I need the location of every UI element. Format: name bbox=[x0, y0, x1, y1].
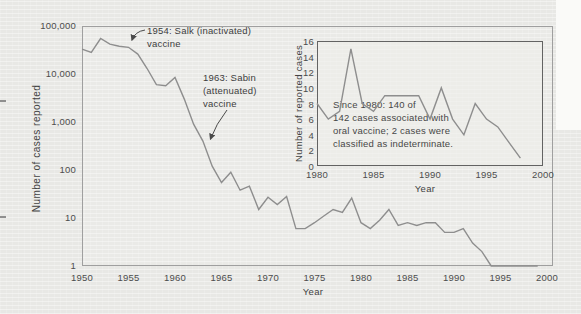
tick-label: 1990 bbox=[410, 169, 450, 180]
tick-label: 14 bbox=[292, 52, 314, 63]
tick-label: 10,000 bbox=[28, 68, 76, 79]
tick-label: 1955 bbox=[109, 272, 149, 283]
tick-label: 1985 bbox=[388, 272, 428, 283]
inset-x-axis-title: Year bbox=[405, 183, 445, 194]
tick-label: 1970 bbox=[248, 272, 288, 283]
annotation-sabin-vaccine: 1963: Sabin (attenuated) vaccine bbox=[203, 71, 257, 110]
page-edge-highlight bbox=[556, 0, 581, 130]
tick-label: 8 bbox=[292, 99, 314, 110]
annotation-salk-vaccine: 1954: Salk (inactivated) vaccine bbox=[147, 24, 251, 50]
tick-label: 2000 bbox=[527, 272, 567, 283]
tick-label: 1995 bbox=[467, 169, 507, 180]
tick-label: 4 bbox=[292, 130, 314, 141]
tick-label: 1985 bbox=[354, 169, 394, 180]
tick-label: 1990 bbox=[434, 272, 474, 283]
tick-label: 2000 bbox=[523, 169, 563, 180]
tick-label: 1995 bbox=[481, 272, 521, 283]
tick-label: 16 bbox=[292, 36, 314, 47]
tick-label: 1965 bbox=[202, 272, 242, 283]
page-edge-mark bbox=[0, 216, 6, 218]
page-edge-mark bbox=[0, 100, 6, 102]
tick-label: 1975 bbox=[295, 272, 335, 283]
tick-label: 2 bbox=[292, 145, 314, 156]
polio-cases-figure: Number of cases reported Year 100,00010,… bbox=[0, 0, 581, 314]
tick-label: 1960 bbox=[155, 272, 195, 283]
tick-label: 1950 bbox=[62, 272, 102, 283]
inset-note-text: Since 1980: 140 of 142 cases associated … bbox=[333, 98, 493, 150]
tick-label: 1,000 bbox=[28, 116, 76, 127]
tick-label: 6 bbox=[292, 114, 314, 125]
tick-label: 1 bbox=[28, 260, 76, 271]
tick-label: 12 bbox=[292, 67, 314, 78]
main-x-axis-title: Year bbox=[293, 286, 333, 297]
tick-label: 10 bbox=[292, 83, 314, 94]
tick-label: 1980 bbox=[297, 169, 337, 180]
tick-label: 100,000 bbox=[28, 20, 76, 31]
tick-label: 10 bbox=[28, 212, 76, 223]
tick-label: 100 bbox=[28, 164, 76, 175]
tick-label: 1980 bbox=[341, 272, 381, 283]
